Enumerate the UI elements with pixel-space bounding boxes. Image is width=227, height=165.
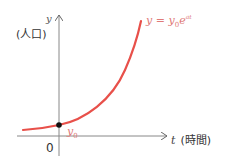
x-axis-caption: (時間) xyxy=(181,134,212,147)
intercept-point xyxy=(56,122,62,128)
y-axis-caption: (人口) xyxy=(16,29,47,40)
equation-exponent: at xyxy=(186,13,192,20)
origin-label: 0 xyxy=(46,142,54,154)
x-axis-label-group: t (時間) xyxy=(171,131,211,147)
intercept-sub: 0 xyxy=(73,132,77,140)
x-axis-label: t xyxy=(171,134,175,147)
y-axis-label: y xyxy=(46,14,52,24)
equation-label: y = y0eat xyxy=(146,14,192,29)
intercept-label: y0 xyxy=(67,126,78,140)
equation-equals: = xyxy=(152,14,168,27)
